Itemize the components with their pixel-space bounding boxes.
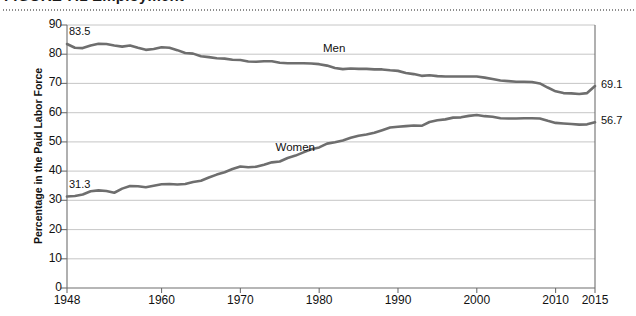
annotation-women-end: 56.7 [601, 114, 622, 126]
x-tick-2010: 2010 [542, 293, 569, 307]
x-tick-1990: 1990 [385, 293, 412, 307]
annotation-women-start: 31.3 [69, 178, 90, 190]
line-chart [0, 0, 636, 316]
figure-container: FIGURE 7.1 Employment [0, 0, 636, 316]
series-label-women: Women [276, 141, 315, 153]
x-tick-1980: 1980 [306, 293, 333, 307]
annotation-men-end: 69.1 [601, 78, 622, 90]
x-tick-1960: 1960 [148, 293, 175, 307]
annotation-men-start: 83.5 [69, 25, 90, 37]
x-tick-1948: 1948 [54, 293, 81, 307]
dotted-divider [2, 9, 634, 11]
plot-area [67, 25, 595, 288]
figure-heading-text: FIGURE 7.1 Employment [4, 0, 184, 4]
x-tick-2015: 2015 [582, 293, 609, 307]
y-axis-title: Percentage in the Paid Labor Force [32, 26, 44, 286]
x-tick-1970: 1970 [227, 293, 254, 307]
x-tick-2000: 2000 [463, 293, 490, 307]
series-label-men: Men [323, 42, 345, 54]
